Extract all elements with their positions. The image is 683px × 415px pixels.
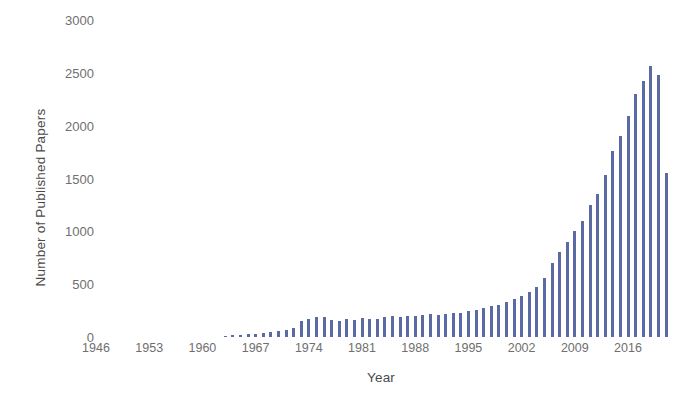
x-axis-tick-label: 1953 <box>135 341 163 355</box>
bar <box>330 320 333 337</box>
x-axis-tick-label: 1995 <box>454 341 482 355</box>
bar-chart: Number of Published Papers 0500100015002… <box>0 0 683 415</box>
bar <box>376 319 379 337</box>
x-axis-tick-label: 1960 <box>188 341 216 355</box>
bar <box>277 331 280 337</box>
bar <box>262 333 265 337</box>
bar <box>475 310 478 337</box>
bar <box>543 278 546 337</box>
bar <box>581 221 584 337</box>
y-axis-tick-label: 2000 <box>46 118 94 133</box>
bar <box>467 311 470 337</box>
bar <box>642 81 645 337</box>
y-axis-tick-label: 3000 <box>46 13 94 28</box>
bar <box>414 316 417 337</box>
x-axis-tick-label: 2009 <box>561 341 589 355</box>
bar <box>619 136 622 337</box>
bar <box>421 315 424 337</box>
bar <box>345 319 348 337</box>
bar <box>315 317 318 337</box>
bar <box>505 302 508 337</box>
bar <box>604 175 607 337</box>
bar <box>482 308 485 337</box>
bar <box>307 319 310 337</box>
bar <box>353 320 356 337</box>
bar <box>247 334 250 337</box>
bar <box>452 313 455 337</box>
x-axis-title: Year <box>96 370 666 385</box>
bar <box>338 321 341 337</box>
x-axis-tick-label: 2016 <box>614 341 642 355</box>
bar <box>596 194 599 337</box>
x-axis-tick-label: 1946 <box>82 341 110 355</box>
bar <box>589 205 592 337</box>
bar <box>269 332 272 337</box>
bar <box>459 313 462 337</box>
bar <box>399 317 402 337</box>
bar <box>429 314 432 337</box>
y-axis-tick-label: 1500 <box>46 171 94 186</box>
bar <box>665 173 668 337</box>
bar <box>657 75 660 337</box>
y-axis-tick-label: 1000 <box>46 224 94 239</box>
x-axis-tick-labels: 1946195319601967197419811988199520022009… <box>96 341 666 361</box>
bar <box>573 231 576 337</box>
bar <box>383 317 386 337</box>
bar <box>406 316 409 337</box>
bar <box>551 263 554 337</box>
bar <box>611 151 614 337</box>
bar <box>490 306 493 337</box>
bar <box>558 252 561 337</box>
bar <box>497 305 500 337</box>
bar <box>513 299 516 337</box>
bar <box>231 335 234 337</box>
bar <box>566 242 569 337</box>
bar <box>520 296 523 337</box>
bar <box>437 315 440 337</box>
bar <box>649 66 652 337</box>
bar <box>444 314 447 337</box>
x-axis-tick-label: 2002 <box>508 341 536 355</box>
bar <box>528 292 531 337</box>
bar <box>627 116 630 337</box>
x-axis-tick-label: 1974 <box>295 341 323 355</box>
bar <box>285 330 288 337</box>
bar <box>368 319 371 337</box>
y-axis-tick-label: 500 <box>46 277 94 292</box>
bar <box>535 287 538 337</box>
bar <box>292 328 295 338</box>
bar <box>300 321 303 337</box>
bar <box>361 318 364 337</box>
bar <box>391 316 394 337</box>
x-axis-tick-label: 1981 <box>348 341 376 355</box>
bar <box>224 336 227 337</box>
x-axis-tick-label: 1967 <box>242 341 270 355</box>
bar <box>239 335 242 337</box>
y-axis-tick-label: 2500 <box>46 65 94 80</box>
x-axis-tick-label: 1988 <box>401 341 429 355</box>
bar <box>323 317 326 337</box>
bar <box>634 94 637 337</box>
bar <box>254 334 257 337</box>
plot-area <box>96 20 666 337</box>
